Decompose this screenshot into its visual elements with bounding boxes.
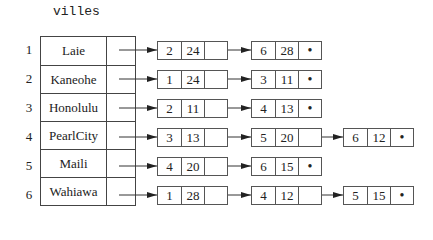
list-node: 1 24	[157, 70, 228, 89]
node-dest: 3	[252, 71, 275, 88]
list-node: 6 28 •	[251, 41, 322, 60]
node-weight: 11	[275, 71, 298, 88]
null-pointer-icon: •	[390, 187, 413, 204]
node-next	[204, 42, 227, 59]
node-next	[298, 129, 321, 146]
list-node: 4 13 •	[251, 99, 322, 118]
null-pointer-icon: •	[298, 158, 321, 175]
node-next	[204, 129, 227, 146]
node-next	[204, 187, 227, 204]
null-pointer-icon: •	[298, 42, 321, 59]
null-pointer-icon: •	[298, 100, 321, 117]
node-weight: 24	[181, 42, 204, 59]
node-next	[204, 100, 227, 117]
node-weight: 24	[181, 71, 204, 88]
node-weight: 15	[367, 187, 390, 204]
list-node: 6 12 •	[343, 128, 414, 147]
node-weight: 12	[367, 129, 390, 146]
node-weight: 28	[275, 42, 298, 59]
list-node: 2 24	[157, 41, 228, 60]
node-dest: 2	[158, 42, 181, 59]
node-weight: 13	[275, 100, 298, 117]
list-node: 3 11 •	[251, 70, 322, 89]
node-dest: 2	[158, 100, 181, 117]
list-node: 3 13	[157, 128, 228, 147]
node-dest: 6	[252, 158, 275, 175]
node-dest: 1	[158, 187, 181, 204]
list-node: 1 28	[157, 186, 228, 205]
node-weight: 13	[181, 129, 204, 146]
node-dest: 1	[158, 71, 181, 88]
null-pointer-icon: •	[390, 129, 413, 146]
list-node: 4 20	[157, 157, 228, 176]
list-node: 4 12	[251, 186, 322, 205]
node-weight: 28	[181, 187, 204, 204]
node-weight: 20	[275, 129, 298, 146]
list-node: 6 15 •	[251, 157, 322, 176]
node-dest: 6	[344, 129, 367, 146]
node-weight: 11	[181, 100, 204, 117]
node-dest: 6	[252, 42, 275, 59]
node-weight: 12	[275, 187, 298, 204]
node-dest: 5	[252, 129, 275, 146]
node-dest: 4	[158, 158, 181, 175]
node-next	[204, 158, 227, 175]
node-dest: 4	[252, 187, 275, 204]
list-node: 2 11	[157, 99, 228, 118]
node-weight: 20	[181, 158, 204, 175]
list-node: 5 15 •	[343, 186, 414, 205]
node-dest: 3	[158, 129, 181, 146]
list-node: 5 20	[251, 128, 322, 147]
node-next	[204, 71, 227, 88]
node-weight: 15	[275, 158, 298, 175]
node-next	[298, 187, 321, 204]
node-dest: 4	[252, 100, 275, 117]
null-pointer-icon: •	[298, 71, 321, 88]
node-dest: 5	[344, 187, 367, 204]
